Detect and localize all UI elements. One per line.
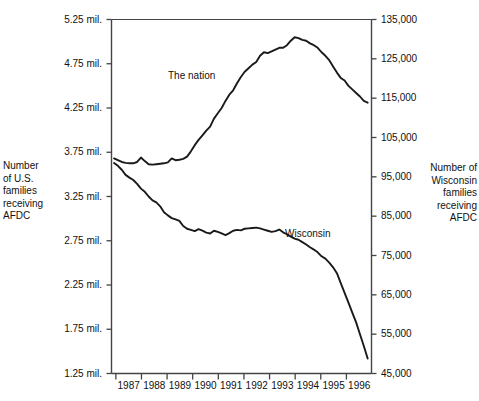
right-tick-label: 125,000 bbox=[381, 54, 441, 64]
series-label-wisconsin: Wisconsin bbox=[285, 229, 331, 239]
axis-frame bbox=[112, 20, 372, 374]
right-tick-label: 45,000 bbox=[381, 369, 441, 379]
right-tick-label: 135,000 bbox=[381, 15, 441, 25]
left-tick-label: 5.25 mil. bbox=[40, 15, 102, 25]
left-tick-label: 2.25 mil. bbox=[40, 280, 102, 290]
series-line-the-nation bbox=[114, 37, 368, 164]
right-tick-label: 105,000 bbox=[381, 133, 441, 143]
left-tick-label: 4.25 mil. bbox=[40, 103, 102, 113]
right-tick-label: 55,000 bbox=[381, 329, 441, 339]
series-line-wisconsin bbox=[114, 163, 368, 358]
left-tick-label: 3.75 mil. bbox=[40, 147, 102, 157]
left-tick-label: 2.75 mil. bbox=[40, 236, 102, 246]
right-tick-label: 95,000 bbox=[381, 172, 441, 182]
left-tick-label: 3.25 mil. bbox=[40, 192, 102, 202]
right-tick-label: 65,000 bbox=[381, 290, 441, 300]
left-tick-label: 4.75 mil. bbox=[40, 59, 102, 69]
x-axis-ticks bbox=[116, 374, 347, 380]
x-tick-label: 1996 bbox=[339, 381, 379, 391]
left-tick-label: 1.75 mil. bbox=[40, 324, 102, 334]
right-tick-label: 115,000 bbox=[381, 93, 441, 103]
left-axis-ticks bbox=[107, 20, 112, 374]
afdc-caseload-chart: Number of U.S. families receiving AFDC N… bbox=[0, 0, 479, 401]
right-tick-label: 85,000 bbox=[381, 211, 441, 221]
right-tick-label: 75,000 bbox=[381, 251, 441, 261]
right-axis-ticks bbox=[372, 20, 377, 374]
left-tick-label: 1.25 mil. bbox=[40, 369, 102, 379]
series-label-the-nation: The nation bbox=[168, 71, 215, 81]
